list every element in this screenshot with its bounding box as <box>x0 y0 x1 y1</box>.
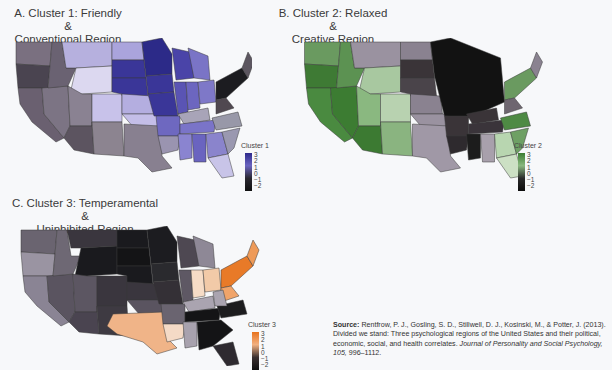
panel-b-title-line1: B. Cluster 2: Relaxed & <box>278 7 388 33</box>
map-cluster-2 <box>298 38 543 190</box>
panel-c-title-line1: C. Cluster 3: Temperamental & <box>10 197 160 223</box>
legend-cluster-2: Cluster 2 3 2 1 0 −1 −2 <box>514 142 554 197</box>
map-cluster-3 <box>12 226 262 366</box>
legend-title: Cluster 3 <box>248 321 288 328</box>
source-text-2: 996–1112. <box>347 349 381 357</box>
legend-cluster-1: Cluster 1 3 2 1 0 −1 −2 <box>241 142 281 197</box>
legend-title: Cluster 2 <box>514 142 554 149</box>
source-label: Source: <box>333 321 359 329</box>
legend-ticks: 3 2 1 0 −1 −2 <box>254 152 261 190</box>
legend-ticks: 3 2 1 0 −1 −2 <box>527 152 534 190</box>
legend-color-bar <box>518 153 525 191</box>
legend-color-bar <box>252 332 259 370</box>
panel-a-title-line1: A. Cluster 1: Friendly & <box>12 7 124 33</box>
legend-ticks: 3 2 1 0 −1 −2 <box>261 331 268 369</box>
source-citation: Source: Rentfrow, P. J., Gosling, S. D.,… <box>333 321 612 359</box>
legend-title: Cluster 1 <box>241 142 281 149</box>
map-cluster-1 <box>12 38 252 190</box>
legend-color-bar <box>245 153 252 191</box>
legend-cluster-3: Cluster 3 3 2 1 0 −1 −2 <box>248 321 288 370</box>
